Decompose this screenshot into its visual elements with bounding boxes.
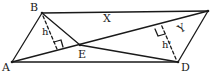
segment-top-right-d bbox=[178, 11, 208, 62]
label-e: E bbox=[78, 49, 86, 60]
label-height-h-prime: h' bbox=[162, 40, 171, 50]
label-b: B bbox=[30, 2, 38, 13]
label-d: D bbox=[181, 62, 190, 73]
point-b bbox=[41, 12, 44, 15]
label-region-x: X bbox=[103, 13, 111, 24]
point-e bbox=[79, 44, 82, 47]
label-a: A bbox=[2, 62, 10, 73]
point-a bbox=[11, 61, 14, 64]
point-top-right bbox=[207, 10, 210, 13]
label-height-h: h bbox=[42, 27, 48, 37]
point-d bbox=[177, 61, 180, 64]
right-angle-marker-h-prime bbox=[155, 29, 165, 36]
segment-ab bbox=[12, 13, 42, 62]
segment-b-top-right bbox=[42, 11, 208, 13]
